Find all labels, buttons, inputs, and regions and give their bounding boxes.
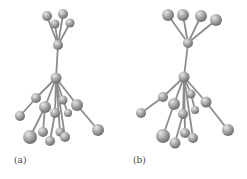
panel-a: (a) (0, 0, 123, 179)
ball-node (201, 97, 212, 108)
ball-node (170, 138, 181, 149)
ball-node (179, 72, 190, 83)
ball-node (45, 136, 55, 146)
ball-node (23, 130, 37, 144)
ball-node (187, 90, 196, 99)
ball-node (168, 98, 180, 110)
ball-node (92, 124, 104, 136)
ball-node (60, 132, 70, 142)
ball-node (222, 124, 234, 136)
ball-node (66, 19, 75, 28)
ball-node (188, 133, 198, 143)
ball-node (38, 127, 48, 137)
ball-node (136, 108, 146, 118)
ball-stick-model-a (0, 0, 123, 179)
ball-node (15, 111, 25, 121)
ball-stick-model-b (123, 0, 247, 179)
ball-node (51, 73, 62, 84)
ball-node (51, 20, 60, 29)
ball-node (183, 38, 193, 48)
ball-node (50, 108, 60, 118)
ball-node (178, 109, 188, 119)
ball-node (42, 11, 52, 21)
ball-node (177, 9, 189, 21)
ball-node (210, 14, 222, 26)
ball-node (191, 106, 199, 114)
ball-node (158, 92, 168, 102)
ball-node (58, 9, 68, 19)
ball-node (59, 96, 68, 105)
ball-node (39, 101, 51, 113)
ball-node (53, 40, 63, 50)
panel-b: (b) (123, 0, 246, 179)
ball-node (195, 10, 207, 22)
panel-a-label: (a) (14, 155, 26, 165)
ball-node (162, 9, 174, 21)
panel-b-label: (b) (133, 155, 146, 165)
ball-node (31, 93, 41, 103)
ball-node (64, 109, 72, 117)
ball-node (156, 129, 170, 143)
ball-node (71, 99, 83, 111)
